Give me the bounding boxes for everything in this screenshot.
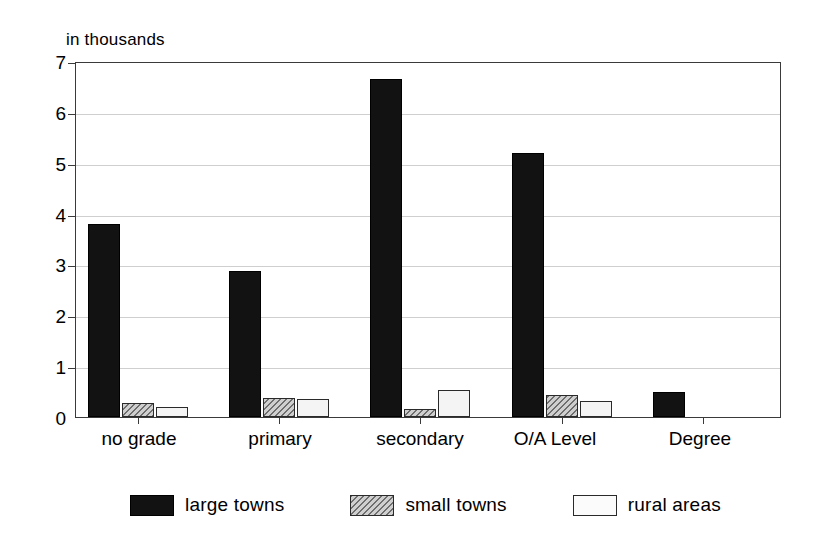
y-axis-tick [68,63,76,64]
x-axis-tick [420,417,421,424]
y-axis-tick-label: 2 [34,307,66,326]
legend-item: rural areas [573,494,721,516]
x-axis-tick [562,417,563,424]
y-axis-tick-label: 6 [34,103,66,122]
bar-group [88,63,188,417]
y-axis-tick-label: 5 [34,154,66,173]
x-axis-tick-label: no grade [101,428,176,450]
y-axis-tick-label: 4 [34,205,66,224]
bar [438,390,470,417]
bar [404,409,436,417]
y-axis-tick [68,266,76,267]
plot-area [75,62,781,418]
y-axis-tick [68,165,76,166]
legend-item: large towns [130,494,284,516]
bar-chart: in thousands 01234567 no gradeprimarysec… [0,0,826,545]
x-axis-tick-label: secondary [376,428,464,450]
y-axis-tick-label: 7 [34,53,66,72]
x-axis-tick [138,417,139,424]
bar-group [370,63,470,417]
bar [580,401,612,417]
bar [263,398,295,417]
y-axis-tick-label: 0 [34,409,66,428]
bar [653,392,685,417]
bar [546,395,578,417]
x-axis-tick [279,417,280,424]
legend-swatch-icon [130,495,174,516]
legend-swatch-icon [573,495,617,516]
bar [297,399,329,417]
y-axis-tick-label: 1 [34,358,66,377]
bar [88,224,120,417]
x-axis-tick-label: primary [248,428,311,450]
legend-label: large towns [185,494,284,516]
y-axis-tick-labels: 01234567 [30,62,66,418]
y-axis-tick [68,317,76,318]
y-axis-tick [68,114,76,115]
bar [122,403,154,417]
y-axis-tick [68,368,76,369]
x-axis-tick-label: O/A Level [514,428,596,450]
bar-group [229,63,329,417]
bar [512,153,544,417]
y-axis-tick-label: 3 [34,256,66,275]
legend-label: rural areas [628,494,721,516]
bar [229,271,261,417]
legend-swatch-icon [350,495,394,516]
bar [370,79,402,417]
x-axis-tick-labels: no gradeprimarysecondaryO/A LevelDegree [75,428,781,458]
bar-group [512,63,612,417]
chart-legend: large townssmall townsrural areas [130,488,721,522]
bar [156,407,188,417]
y-axis-tick [68,216,76,217]
x-axis-tick-label: Degree [669,428,731,450]
bar-group [653,63,753,417]
legend-label: small towns [405,494,506,516]
y-axis-unit-caption: in thousands [66,30,165,50]
x-axis-tick [703,417,704,424]
legend-item: small towns [350,494,506,516]
